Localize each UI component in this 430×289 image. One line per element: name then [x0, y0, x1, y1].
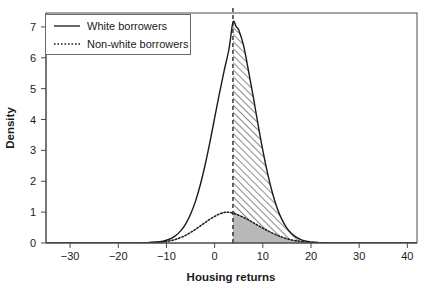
x-tick-label: 10: [257, 250, 269, 262]
x-axis-title: Housing returns: [187, 271, 276, 283]
x-tick-label: 40: [401, 250, 413, 262]
y-tick-label: 2: [30, 175, 36, 187]
y-axis: 01234567: [30, 13, 46, 249]
shaded-region-hatched: [233, 22, 417, 243]
x-axis: −30−20−10010203040: [46, 243, 417, 262]
curve-non-white-borrowers: [46, 212, 417, 243]
x-tick-label: 20: [305, 250, 317, 262]
x-tick-label: −30: [61, 250, 80, 262]
x-tick-label: −10: [157, 250, 176, 262]
legend-label-non-white-borrowers: Non-white borrowers: [87, 38, 189, 50]
chart-legend: White borrowers Non-white borrowers: [46, 15, 191, 55]
y-tick-label: 7: [30, 21, 36, 33]
x-tick-label: 0: [212, 250, 218, 262]
x-tick-label: −20: [109, 250, 128, 262]
y-axis-title: Density: [4, 107, 16, 149]
legend-label-white-borrowers: White borrowers: [87, 20, 168, 32]
x-tick-label: 30: [353, 250, 365, 262]
y-tick-label: 6: [30, 52, 36, 64]
chart-canvas: −30−20−10010203040 01234567 Housing retu…: [0, 0, 430, 289]
y-tick-label: 1: [30, 206, 36, 218]
y-tick-label: 0: [30, 237, 36, 249]
y-tick-label: 3: [30, 144, 36, 156]
y-tick-label: 4: [30, 114, 36, 126]
y-tick-label: 5: [30, 83, 36, 95]
density-chart-figure: −30−20−10010203040 01234567 Housing retu…: [0, 0, 430, 289]
